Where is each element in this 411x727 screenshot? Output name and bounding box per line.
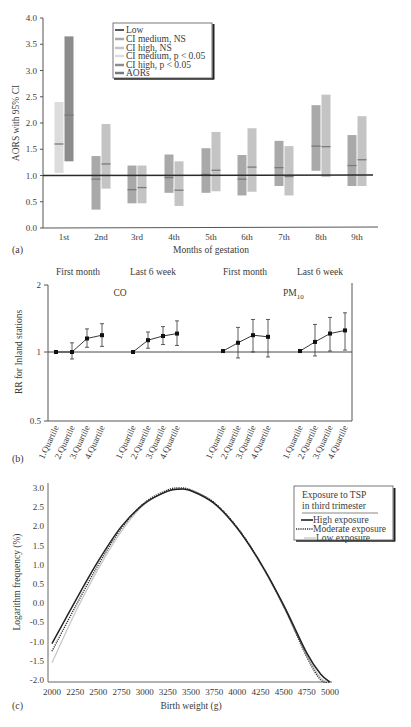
rr-line (223, 335, 268, 351)
panel-a-xtick: 2nd (94, 232, 108, 242)
ci-bar-medium (165, 155, 174, 193)
header-co-first-month: First month (56, 267, 100, 277)
panel-c-x-label: Birth weight (g) (160, 701, 221, 712)
panel-a-ytick: 0.5 (26, 197, 38, 207)
panel-a: 0.00.51.01.52.02.53.03.54.0 AORS with 95… (11, 13, 378, 256)
panel-c-ytick: 0.0 (33, 598, 45, 608)
panel-a-label: (a) (12, 244, 23, 256)
rr-point (266, 335, 270, 339)
rr-point (251, 333, 255, 337)
rr-point (131, 350, 135, 354)
panel-a-ytick: 0.0 (26, 223, 38, 233)
ci-bar-high (175, 161, 184, 206)
panel-a-ytick: 3.5 (26, 39, 38, 49)
legend-title-line1: Exposure to TSP (302, 490, 366, 500)
panel-c-ytick: 1.5 (33, 541, 45, 551)
panel-b-label: (b) (12, 453, 24, 465)
rr-point (328, 332, 332, 336)
panel-a-ytick: 4.0 (26, 13, 38, 23)
curve-low-exposure (52, 489, 330, 682)
panel-b: First month Last 6 week First month Last… (12, 267, 352, 465)
rr-point (343, 328, 347, 332)
rr-point (313, 340, 317, 344)
panel-a-y-label: AORS with 95% CI (11, 85, 21, 161)
panel-a-ytick: 2.0 (26, 118, 38, 128)
panel-a-legend: Low CI medium, NS CI high, NS CI medium,… (113, 23, 214, 80)
panel-c-ytick: -1.0 (30, 637, 45, 647)
panel-c-xtick: 2500 (89, 687, 108, 697)
panel-c-ytick: -0.5 (30, 617, 45, 627)
ci-bar-medium (348, 135, 357, 186)
panel-c-ytick: 1.0 (33, 560, 45, 570)
rr-point (298, 349, 302, 353)
panel-c-xtick: 5000 (321, 687, 340, 697)
rr-point (54, 350, 58, 354)
ci-bar-medium (92, 156, 101, 210)
panel-a-x-label: Months of gestation (173, 245, 249, 255)
panel-c-legend: Exposure to TSP in third trimester High … (294, 486, 395, 543)
panel-c-label: (c) (12, 700, 23, 712)
rr-point (85, 336, 89, 340)
panel-a-ytick: 2.5 (26, 92, 38, 102)
panel-c-xtick: 3000 (136, 687, 155, 697)
panel-a-ytick: 1.0 (26, 171, 38, 181)
ci-bar-medium (312, 105, 321, 171)
panel-a-xtick: 1st (59, 232, 70, 242)
low-reference-line (43, 175, 373, 176)
panel-c-xtick: 3500 (182, 687, 201, 697)
panel-c: 3.02.52.01.51.00.50.0-0.5-1.0-1.5-2.0 20… (12, 483, 395, 712)
ci-bar-medium (202, 148, 211, 193)
panel-c-xtick: 2000 (43, 687, 62, 697)
rr-point (236, 341, 240, 345)
panel-a-xtick: 3rd (131, 232, 143, 242)
ci-bar-high (212, 132, 221, 191)
rr-point (161, 334, 165, 338)
panel-c-xtick: 4000 (228, 687, 247, 697)
ci-bar-high (285, 146, 294, 195)
panel-a-ytick: 1.5 (26, 144, 38, 154)
panel-c-ytick: 2.5 (33, 502, 45, 512)
panel-c-ytick: 3.0 (33, 483, 45, 493)
panel-a-ytick: 3.0 (26, 66, 38, 76)
panel-c-curves (52, 488, 330, 682)
rr-point (221, 349, 225, 353)
panel-b-quartile-labels: 1.Quartile2.Quartile3.Quartile4.Quartile… (36, 424, 349, 461)
panel-c-axes: 3.02.52.01.51.00.50.0-0.5-1.0-1.5-2.0 20… (12, 483, 340, 712)
panel-b-headers: First month Last 6 week First month Last… (56, 267, 343, 277)
panel-c-ytick: -2.0 (30, 675, 45, 685)
panel-b-ytick: 2 (37, 280, 42, 290)
panel-b-ytick: 0.5 (30, 416, 42, 426)
legend-low-exposure: Low exposure (316, 533, 370, 543)
panel-a-xtick: 6th (241, 232, 253, 242)
curve-moderate-exposure (52, 488, 330, 682)
panel-c-xtick: 2250 (66, 687, 85, 697)
panel-c-xtick: 4750 (298, 687, 317, 697)
panel-c-xtick: 4500 (275, 687, 294, 697)
panel-c-xtick: 2750 (113, 687, 132, 697)
rr-point (175, 332, 179, 336)
panel-c-ytick: -1.5 (30, 656, 45, 666)
header-pm-first-month: First month (223, 267, 267, 277)
ci-bar-high (138, 166, 147, 204)
header-pm-last-6-week: Last 6 week (297, 267, 343, 277)
ci-bar-medium (128, 166, 137, 204)
ci-bar-high (248, 128, 257, 192)
legend-title-line2: in third trimester (302, 501, 367, 511)
rr-line (300, 330, 345, 351)
header-co-last-6-week: Last 6 week (130, 267, 176, 277)
panel-a-x-axis: 1st2nd3rd4th5th6th7th8th9th Months of ge… (43, 227, 378, 255)
ci-bar-high (322, 95, 331, 177)
rr-point (146, 338, 150, 342)
panel-c-xtick: 4250 (252, 687, 271, 697)
panel-a-xtick: 8th (315, 232, 327, 242)
panel-a-xtick: 4th (168, 232, 180, 242)
ci-bar-high (102, 124, 111, 189)
figure-canvas: 0.00.51.01.52.02.53.03.54.0 AORS with 95… (0, 0, 411, 727)
ci-bar-medium (275, 141, 284, 186)
panel-a-y-axis: 0.00.51.01.52.02.53.03.54.0 AORS with 95… (11, 13, 43, 233)
rr-line (133, 334, 177, 352)
panel-c-xtick: 3750 (205, 687, 224, 697)
rr-point (70, 350, 74, 354)
panel-c-y-label: Logarithm frequency (%) (12, 533, 23, 630)
pollutant-co-label: CO (113, 288, 126, 298)
